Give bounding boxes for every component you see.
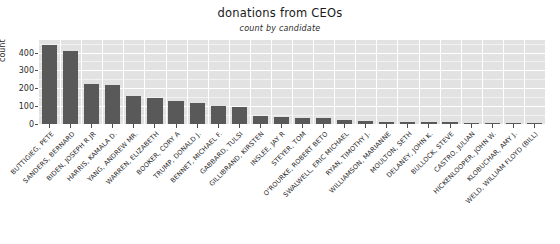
bar-cell [229,40,250,124]
chart-container: donations from CEOs count by candidate c… [0,0,560,244]
y-tick-label: 100 [0,102,34,111]
x-tick-mark [492,124,493,128]
bar[interactable] [190,103,205,124]
x-tick-mark [133,124,134,128]
x-tick-cell [334,124,355,128]
bar-cell [39,40,60,124]
y-tick-label: 0 [0,120,34,129]
bar[interactable] [274,117,289,124]
bar-cell [123,40,144,124]
x-tick-mark [260,124,261,128]
bar[interactable] [126,96,141,124]
x-tick-mark [386,124,387,128]
x-tick-cell [187,124,208,128]
bar-cell [355,40,376,124]
bar-cell [461,40,482,124]
bar-cell [102,40,123,124]
x-tick-cell [144,124,165,128]
x-tick-cell [229,124,250,128]
y-tick-label: 300 [0,66,34,75]
y-tick-label: 200 [0,84,34,93]
bar-cell [208,40,229,124]
x-tick-mark [281,124,282,128]
x-tick-mark [302,124,303,128]
x-tick-mark [471,124,472,128]
x-tick-cell [524,124,545,128]
bar-cell [418,40,439,124]
x-tick-cell [250,124,271,128]
x-axis-labels: BUTTIGIEG, PETESANDERS, BERNARDBIDEN, JO… [39,129,545,241]
bar-cell [250,40,271,124]
bar-cell [292,40,313,124]
x-tick-cell [418,124,439,128]
x-tick-mark [176,124,177,128]
chart-subtitle: count by candidate [0,24,560,33]
bar[interactable] [168,101,183,124]
bar-cell [60,40,81,124]
bar-cell [524,40,545,124]
y-tick-mark [35,124,38,125]
bar-cell [144,40,165,124]
bar-cell [376,40,397,124]
bar-cell [165,40,186,124]
x-tick-cell [60,124,81,128]
bar-cell [439,40,460,124]
x-tick-cell [165,124,186,128]
x-tick-mark [407,124,408,128]
bar-cell [397,40,418,124]
bar-cell [482,40,503,124]
bar-cell [503,40,524,124]
x-tick-mark [218,124,219,128]
bar[interactable] [42,45,57,124]
x-tick-mark [154,124,155,128]
x-tick-cell [102,124,123,128]
bar-cell [81,40,102,124]
bar[interactable] [211,106,226,124]
x-tick-cell [123,124,144,128]
bar[interactable] [232,107,247,124]
x-tick-cell [39,124,60,128]
x-tick-mark [197,124,198,128]
bar-series [39,40,545,124]
x-tick-cell [355,124,376,128]
x-tick-cell [439,124,460,128]
x-tick-cell [397,124,418,128]
x-tick-mark [450,124,451,128]
chart-title: donations from CEOs [0,6,560,20]
y-tick-mark [35,70,38,71]
bar[interactable] [105,85,120,124]
x-tick-cell [313,124,334,128]
bar-cell [334,40,355,124]
x-tick-mark [344,124,345,128]
x-tick-mark [323,124,324,128]
x-tick-mark [365,124,366,128]
bar[interactable] [84,84,99,124]
x-tick-mark [49,124,50,128]
x-tick-mark [112,124,113,128]
bar-cell [313,40,334,124]
x-tick-mark [239,124,240,128]
plot-panel [39,40,545,124]
x-tick-cell [503,124,524,128]
x-tick-cell [292,124,313,128]
y-tick-mark [35,88,38,89]
bar-cell [271,40,292,124]
x-tick-mark [513,124,514,128]
x-axis-ticks [39,124,545,128]
x-tick-cell [271,124,292,128]
x-tick-cell [81,124,102,128]
x-tick-mark [534,124,535,128]
x-tick-cell [208,124,229,128]
x-tick-mark [91,124,92,128]
bar[interactable] [147,98,162,124]
y-tick-label: 400 [0,48,34,57]
bar[interactable] [63,51,78,124]
x-tick-cell [482,124,503,128]
y-tick-mark [35,106,38,107]
x-tick-cell [376,124,397,128]
x-tick-cell [461,124,482,128]
bar-cell [187,40,208,124]
bar[interactable] [253,116,268,124]
y-tick-mark [35,53,38,54]
x-label-cell: WELD, WILLIAM FLOYD (BILL) [524,129,545,241]
